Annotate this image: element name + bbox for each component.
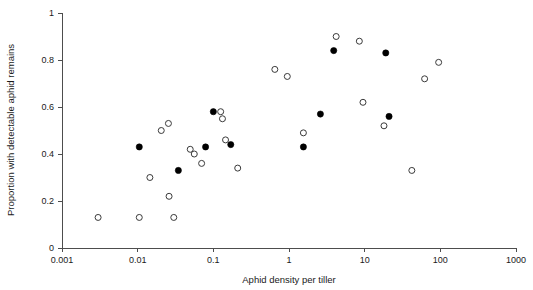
- data-point-filled: [300, 144, 306, 150]
- data-point-open: [223, 137, 229, 143]
- plot-canvas: 00.20.40.60.810.0010.010.11101001000 Aph…: [0, 0, 533, 290]
- data-points: [95, 34, 442, 221]
- axis-tick-labels: 00.20.40.60.810.0010.010.11101001000: [41, 8, 526, 265]
- y-tick-label: 0.2: [41, 196, 54, 206]
- y-tick-label: 0.8: [41, 55, 54, 65]
- axis-ticks: [58, 13, 516, 252]
- data-point-open: [199, 160, 205, 166]
- data-point-open: [191, 151, 197, 157]
- data-point-open: [300, 130, 306, 136]
- data-point-filled: [210, 109, 216, 115]
- data-point-open: [171, 214, 177, 220]
- data-point-filled: [383, 50, 389, 56]
- y-tick-label: 0.6: [41, 102, 54, 112]
- data-point-open: [381, 123, 387, 129]
- data-point-filled: [136, 144, 142, 150]
- y-tick-label: 0.4: [41, 149, 54, 159]
- scatter-plot-figure: 00.20.40.60.810.0010.010.11101001000 Aph…: [0, 0, 533, 290]
- data-point-open: [219, 116, 225, 122]
- data-point-open: [409, 167, 415, 173]
- x-tick-label: 100: [433, 255, 448, 265]
- data-point-filled: [202, 144, 208, 150]
- data-point-open: [272, 66, 278, 72]
- data-point-open: [360, 99, 366, 105]
- data-point-open: [158, 128, 164, 134]
- data-point-open: [165, 120, 171, 126]
- x-tick-label: 0.1: [207, 255, 220, 265]
- x-tick-label: 1000: [506, 255, 526, 265]
- data-point-open: [147, 175, 153, 181]
- data-point-open: [95, 214, 101, 220]
- x-tick-label: 1: [286, 255, 291, 265]
- data-point-open: [284, 73, 290, 79]
- data-point-filled: [228, 142, 234, 148]
- data-point-filled: [175, 167, 181, 173]
- data-point-open: [218, 109, 224, 115]
- x-axis-title: Aphid density per tiller: [242, 274, 335, 285]
- data-point-open: [235, 165, 241, 171]
- data-point-open: [356, 38, 362, 44]
- data-point-filled: [317, 111, 323, 117]
- data-point-filled: [331, 48, 337, 54]
- data-point-open: [136, 214, 142, 220]
- x-tick-label: 0.01: [129, 255, 147, 265]
- y-tick-label: 0: [49, 243, 54, 253]
- data-point-open: [166, 193, 172, 199]
- x-tick-label: 10: [360, 255, 370, 265]
- axes: [62, 13, 516, 248]
- data-point-open: [422, 76, 428, 82]
- x-tick-label: 0.001: [51, 255, 74, 265]
- y-tick-label: 1: [49, 8, 54, 18]
- data-point-open: [436, 59, 442, 65]
- y-axis-title: Proportion with detectable aphid remains: [5, 44, 16, 216]
- data-point-open: [333, 34, 339, 40]
- data-point-filled: [386, 113, 392, 119]
